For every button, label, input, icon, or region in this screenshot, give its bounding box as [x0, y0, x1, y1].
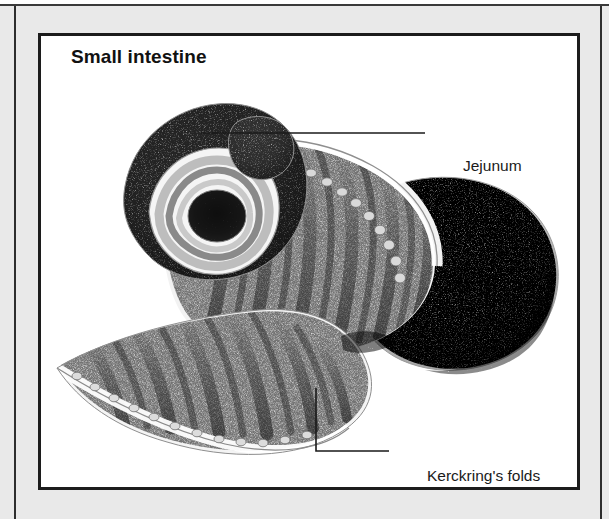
page-edge-right: [600, 6, 602, 519]
figure-frame: Small intestine: [38, 33, 580, 490]
page-top-rule: [0, 4, 609, 6]
page-edge-left: [14, 6, 16, 519]
small-intestine-illustration: [41, 36, 577, 487]
jejunum-bulge: [124, 104, 307, 280]
page: Small intestine: [0, 0, 609, 519]
label-kerckrings-folds: Kerckring's folds: [427, 467, 540, 485]
label-jejunum: Jejunum: [463, 157, 522, 175]
